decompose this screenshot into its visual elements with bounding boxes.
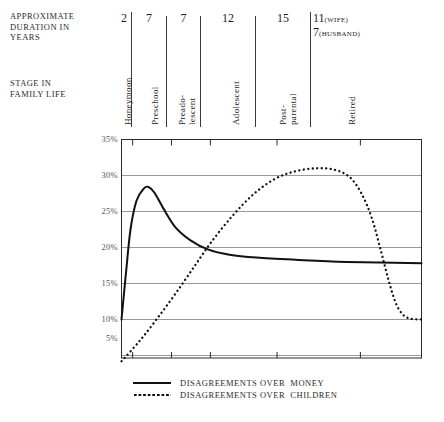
series-line-money	[122, 187, 422, 320]
legend-label-children: DISAGREEMENTS OVER CHILDREN	[180, 390, 337, 400]
chart-page: APPROXIMATE DURATION IN YEARS STAGE IN F…	[0, 0, 444, 422]
legend-item-children: DISAGREEMENTS OVER CHILDREN	[133, 389, 337, 401]
legend-item-money: DISAGREEMENTS OVER MONEY	[133, 377, 337, 389]
chart-plot	[0, 0, 444, 422]
x-axis-ticks	[133, 140, 361, 359]
chart-legend: DISAGREEMENTS OVER MONEY DISAGREEMENTS O…	[133, 377, 337, 401]
series-line-children	[122, 168, 422, 361]
legend-label-money: DISAGREEMENTS OVER MONEY	[180, 378, 324, 388]
gridlines	[122, 140, 422, 356]
plot-frame	[122, 140, 422, 359]
legend-swatch-dotted-icon	[133, 390, 171, 400]
legend-swatch-solid-icon	[133, 378, 171, 388]
